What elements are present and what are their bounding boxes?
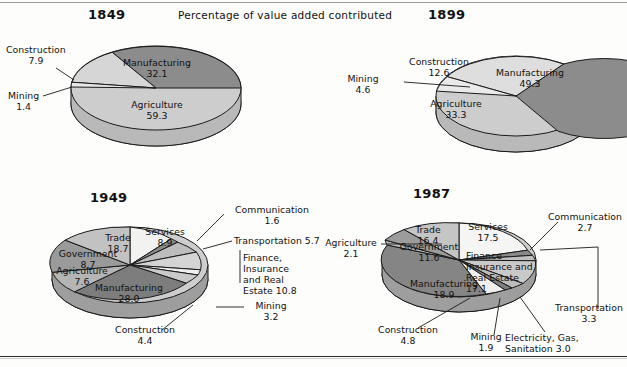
label-text: Manufacturing [123,57,191,68]
slice-label-mining-1899: Mining 4.6 [333,74,393,95]
label-text: Construction [378,324,438,335]
label-value: 1.6 [265,215,280,226]
label-text: Trade [415,224,441,235]
label-text: Mining [8,90,39,101]
slice-label-construction-1899: Construction 12.6 [403,57,475,78]
slice-label-construction-1949: Construction 4.4 [105,325,185,346]
label-text: Government [400,241,458,252]
label-text: Construction [409,56,469,67]
label-value: 59.3 [147,110,168,121]
label-value: 11.6 [419,252,440,263]
label-value: 32.1 [147,68,168,79]
pie-chart-1987-graphic [0,0,627,367]
chart-title-1987: 1987 [413,186,450,201]
slice-label-agriculture-1899: Agriculture 33.3 [416,99,496,120]
label-value: 3.3 [582,313,597,324]
label-value: 8.9 [158,237,173,248]
pie-chart-1899-graphic [0,0,627,367]
label-text: Mining [347,73,378,84]
label-text: Mining [255,300,286,311]
slice-label-mining-1849: Mining 1.4 [8,91,39,112]
slice-label-finance-1949: Finance, Insurance and Real Estate 10.8 [243,252,297,296]
label-value: 3.2 [264,311,279,322]
label-value: 18.9 [434,289,455,300]
label-value: 7.6 [75,276,90,287]
label-value: 17.5 [478,232,499,243]
label-text: Transportation [555,302,623,313]
slice-label-communication-1987: Communication 2.7 [543,212,627,233]
label-value: 7.9 [6,56,66,67]
label-text: Trade [105,232,131,243]
slice-label-electricity-1987: Electricity, Gas, Sanitation 3.0 [505,332,579,354]
slice-label-agriculture-1987: Agriculture 2.1 [320,238,382,259]
slice-label-government-1987: Government 11.6 [391,242,467,263]
top-divider-rule [0,2,627,3]
label-text: Construction [6,44,66,55]
label-text: Agriculture [430,98,482,109]
chart-title-1899: 1899 [428,7,465,22]
label-text: Manufacturing [410,278,478,289]
chart-title-1849: 1849 [88,7,125,22]
slice-label-services-1987: Services 17.5 [458,222,518,243]
pie-chart-1949-graphic [0,0,627,367]
slice-label-manufacturing-1987: Manufacturing 18.9 [399,279,489,300]
label-value: 12.6 [429,67,450,78]
slice-label-construction-1849: Construction 7.9 [6,45,66,66]
slice-label-manufacturing-1849: Manufacturing 32.1 [118,58,196,79]
label-text: Manufacturing [496,67,564,78]
label-text: Communication [548,211,622,222]
label-value: 8.7 [81,259,96,270]
label-value: 1.4 [8,102,39,113]
label-value: 2.1 [344,248,359,259]
slice-label-manufacturing-1899: Manufacturing 49.3 [485,68,575,89]
label-text: Communication [235,204,309,215]
slice-label-communication-1949: Communication 1.6 [223,205,321,226]
slice-label-construction-1987: Construction 4.8 [368,325,448,346]
label-value: 4.8 [401,335,416,346]
bottom-divider-rule [0,356,627,357]
label-value: 33.3 [446,109,467,120]
bottom-divider-rule-shadow [0,358,627,359]
slice-label-mining-1949: Mining 3.2 [246,301,296,322]
label-text: Mining [470,331,501,342]
slice-label-transportation-1987: Transportation 3.3 [551,303,627,324]
slice-label-agriculture-1849: Agriculture 59.3 [120,100,194,121]
label-text: Construction [115,324,175,335]
label-text: Agriculture [325,237,377,248]
label-value: 49.3 [520,78,541,89]
slice-label-government-1949: Government 8.7 [50,249,126,270]
label-value: 4.4 [138,335,153,346]
label-value: 1.9 [479,342,494,353]
figure-main-title: Percentage of value added contributed [178,9,392,21]
label-text: Agriculture [131,99,183,110]
label-value: 2.7 [578,222,593,233]
label-text: Services [468,221,508,232]
label-value: 28.0 [119,293,140,304]
slice-label-services-1949: Services 8.9 [137,227,193,248]
label-text: Government [59,248,117,259]
label-text: Services [145,226,185,237]
slice-label-mining-1987: Mining 1.9 [462,332,510,353]
chart-title-1949: 1949 [90,190,127,205]
pie-chart-1849-graphic [0,0,627,367]
label-value: 4.6 [356,84,371,95]
slice-label-transportation-1949: Transportation 5.7 [234,236,320,247]
